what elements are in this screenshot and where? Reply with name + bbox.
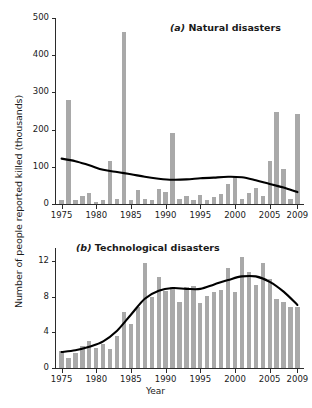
x-tick-label: 1985 bbox=[119, 210, 143, 220]
x-tick bbox=[131, 205, 132, 209]
panel-technological-disasters: (b) Technological disasters 048121975198… bbox=[0, 222, 312, 408]
x-tick-label: 2005 bbox=[258, 210, 282, 220]
x-tick bbox=[62, 369, 63, 373]
x-tick-label: 1995 bbox=[188, 210, 212, 220]
x-tick bbox=[200, 369, 201, 373]
y-tick bbox=[52, 204, 56, 205]
plot-area-b: 0481219751980198519901995200020052009 bbox=[56, 248, 303, 368]
x-tick bbox=[96, 205, 97, 209]
y-tick-label: 8 bbox=[16, 291, 49, 301]
panel-natural-disasters: (a) Natural disasters 010020030040050019… bbox=[0, 0, 312, 222]
trend-line bbox=[56, 18, 303, 204]
x-tick-label: 1990 bbox=[154, 210, 178, 220]
x-tick bbox=[235, 205, 236, 209]
x-tick-label: 2000 bbox=[223, 210, 247, 220]
x-tick-label: 2009 bbox=[285, 210, 309, 220]
x-tick bbox=[166, 369, 167, 373]
x-tick bbox=[96, 369, 97, 373]
x-tick-label: 1990 bbox=[154, 374, 178, 384]
x-axis-label: Year bbox=[146, 386, 165, 396]
y-tick-label: 400 bbox=[16, 49, 49, 59]
y-tick-label: 300 bbox=[16, 86, 49, 96]
trend-line bbox=[56, 248, 303, 368]
x-tick-label: 1980 bbox=[84, 374, 108, 384]
x-tick-label: 1980 bbox=[84, 210, 108, 220]
x-tick-label: 1975 bbox=[50, 374, 74, 384]
x-tick-label: 1975 bbox=[50, 210, 74, 220]
y-tick-label: 200 bbox=[16, 124, 49, 134]
x-tick bbox=[62, 205, 63, 209]
plot-area-a: 0100200300400500197519801985199019952000… bbox=[56, 18, 303, 204]
x-tick-label: 2009 bbox=[285, 374, 309, 384]
x-tick bbox=[297, 205, 298, 209]
x-tick-label: 1985 bbox=[119, 374, 143, 384]
y-tick-label: 100 bbox=[16, 161, 49, 171]
y-tick bbox=[52, 368, 56, 369]
y-tick-label: 0 bbox=[16, 362, 49, 372]
y-tick-label: 0 bbox=[16, 198, 49, 208]
x-tick bbox=[270, 205, 271, 209]
x-tick-label: 1995 bbox=[188, 374, 212, 384]
x-tick bbox=[166, 205, 167, 209]
y-tick-label: 500 bbox=[16, 12, 49, 22]
x-tick bbox=[235, 369, 236, 373]
x-axis-line bbox=[55, 204, 304, 205]
y-tick-label: 12 bbox=[16, 255, 49, 265]
x-tick bbox=[131, 369, 132, 373]
x-tick-label: 2005 bbox=[258, 374, 282, 384]
x-tick-label: 2000 bbox=[223, 374, 247, 384]
x-tick bbox=[270, 369, 271, 373]
y-tick-label: 4 bbox=[16, 326, 49, 336]
x-axis-line bbox=[55, 368, 304, 369]
x-tick bbox=[297, 369, 298, 373]
x-tick bbox=[200, 205, 201, 209]
figure-container: Number of people reported killed (thousa… bbox=[0, 0, 312, 408]
